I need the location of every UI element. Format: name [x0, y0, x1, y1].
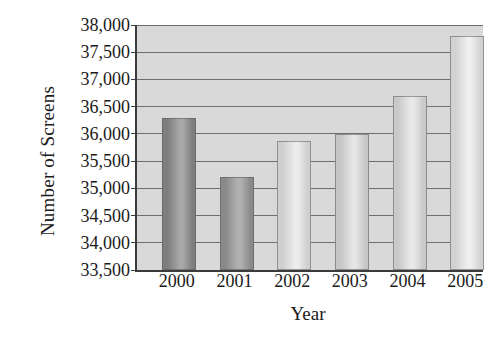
gridline	[137, 25, 483, 26]
gridline	[137, 106, 483, 107]
y-axis-tick-label: 37,000	[54, 70, 130, 88]
y-axis-tick-label: 36,500	[54, 98, 130, 116]
y-axis-tick-label: 34,500	[54, 207, 130, 225]
y-axis-tick-mark	[131, 79, 137, 80]
gridline	[137, 52, 483, 53]
x-axis-tick-label: 2000	[159, 272, 195, 292]
y-axis-tick-mark	[131, 133, 137, 134]
bar-2002	[277, 141, 311, 270]
y-axis-tick-mark	[131, 106, 137, 107]
y-axis-tick-label: 35,500	[54, 152, 130, 170]
bar-chart-figure: Number of Screens 33,50034,00034,50035,0…	[0, 0, 499, 343]
y-axis-tick-label: 38,000	[54, 16, 130, 34]
x-axis-tick-label: 2003	[332, 272, 368, 292]
y-axis-tick-mark	[131, 161, 137, 162]
gridline	[137, 79, 483, 80]
x-axis-title: Year	[135, 303, 481, 325]
y-axis-tick-label: 34,000	[54, 234, 130, 252]
x-axis-tick-label: 2004	[390, 272, 426, 292]
bar-2001	[220, 177, 254, 270]
y-axis-tick-label: 36,000	[54, 125, 130, 143]
x-axis-tick-label: 2002	[274, 272, 310, 292]
plot-inner	[137, 25, 483, 270]
y-axis-tick-mark	[131, 270, 137, 271]
y-axis-tick-mark	[131, 25, 137, 26]
y-axis-tick-mark	[131, 52, 137, 53]
plot-area	[135, 25, 483, 272]
y-axis-tick-label: 37,500	[54, 43, 130, 61]
y-axis-tick-labels: 33,50034,00034,50035,00035,50036,00036,5…	[54, 25, 130, 270]
bar-2004	[393, 96, 427, 270]
x-axis-tick-label: 2005	[447, 272, 483, 292]
x-axis-tick-labels: 200020012002200320042005	[135, 272, 481, 298]
x-axis-tick-label: 2001	[217, 272, 253, 292]
y-axis-tick-label: 33,500	[54, 261, 130, 279]
y-axis-tick-mark	[131, 242, 137, 243]
bar-2003	[335, 134, 369, 270]
bar-2000	[162, 118, 196, 270]
y-axis-tick-label: 35,000	[54, 179, 130, 197]
y-axis-tick-mark	[131, 188, 137, 189]
bar-2005	[450, 36, 484, 270]
y-axis-tick-mark	[131, 215, 137, 216]
